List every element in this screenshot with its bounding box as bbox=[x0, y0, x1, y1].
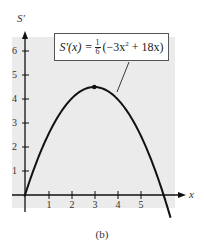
formula-fraction: 1 6 bbox=[95, 39, 101, 56]
y-tick-6: 6 bbox=[12, 45, 17, 56]
y-axis-arrow-icon bbox=[22, 31, 28, 39]
x-tick-1: 1 bbox=[47, 199, 52, 210]
figure-caption: (b) bbox=[0, 228, 204, 240]
plot-background bbox=[12, 37, 175, 208]
maximum-point bbox=[92, 85, 97, 90]
formula-rhs: (−3x2 + 18x) bbox=[103, 40, 164, 55]
y-tick-5: 5 bbox=[12, 69, 17, 80]
x-tick-3: 3 bbox=[93, 199, 98, 210]
x-axis-label: x bbox=[188, 188, 194, 200]
x-axis-arrow-icon bbox=[178, 192, 186, 198]
x-tick-4: 4 bbox=[116, 199, 121, 210]
fraction-denominator: 6 bbox=[96, 48, 100, 56]
x-tick-2: 2 bbox=[70, 199, 75, 210]
y-axis-label: S′ bbox=[17, 12, 26, 24]
y-tick-4: 4 bbox=[12, 93, 17, 104]
y-tick-2: 2 bbox=[12, 141, 17, 152]
formula-label-box: S′(x) = 1 6 (−3x2 + 18x) bbox=[54, 33, 169, 61]
y-tick-3: 3 bbox=[12, 117, 17, 128]
formula-lhs: S′(x) = bbox=[59, 40, 92, 55]
x-tick-5: 5 bbox=[139, 199, 144, 210]
y-tick-1: 1 bbox=[12, 165, 17, 176]
